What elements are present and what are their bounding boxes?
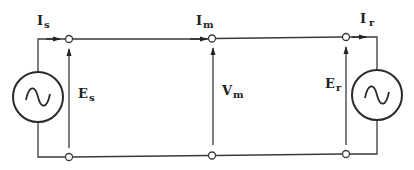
terminal-mid-bottom (209, 152, 216, 159)
label-receiving-current: Ir (360, 11, 375, 28)
terminal-receiving-bottom (343, 151, 350, 158)
label-sending-current: Is (37, 13, 50, 30)
receiving-ac-source (352, 70, 402, 120)
bottom-wire-main-2 (215, 154, 343, 156)
sending-ac-source (13, 72, 63, 122)
label-sending-voltage: Es (78, 86, 95, 103)
bottom-wire-right (349, 120, 377, 154)
label-mid-voltage: Vm (221, 83, 244, 100)
label-mid-current: Im (196, 13, 214, 30)
top-wire-right (349, 37, 377, 70)
circuit-diagram: Is Im Ir Es Vm Er (0, 0, 414, 170)
label-receiving-voltage: Er (325, 76, 342, 93)
terminal-sending-bottom (66, 154, 73, 161)
top-wire-main-2 (215, 37, 343, 39)
terminal-receiving-top (343, 34, 350, 41)
terminal-sending-top (66, 36, 73, 43)
bottom-wire-main-1 (72, 156, 209, 158)
top-wire-left (38, 39, 66, 72)
bottom-wire-left (38, 122, 66, 157)
terminal-mid-top (209, 35, 216, 42)
